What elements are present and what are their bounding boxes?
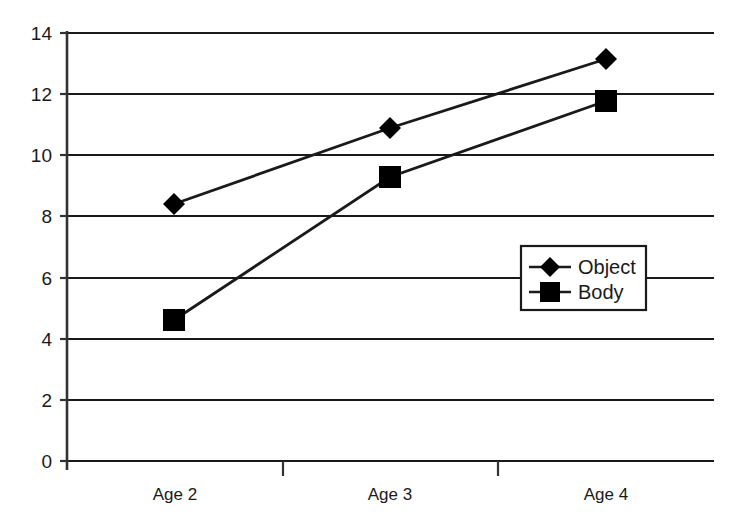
series-body-point-age-4[interactable]: [595, 90, 617, 112]
y-tick-label-8: 8: [41, 206, 52, 227]
legend[interactable]: Object Body: [521, 246, 646, 310]
y-tick-label-6: 6: [41, 268, 52, 289]
chart-container: 14 12 10 8 6 4 2 0 Age 2 Age 3 Age 4: [0, 0, 742, 530]
y-tick-label-12: 12: [31, 84, 52, 105]
x-category-label-age-4: Age 4: [584, 485, 628, 504]
line-chart: 14 12 10 8 6 4 2 0 Age 2 Age 3 Age 4: [0, 0, 742, 530]
y-tick-label-4: 4: [41, 329, 52, 350]
legend-label-object: Object: [578, 256, 636, 278]
x-category-label-age-3: Age 3: [368, 485, 412, 504]
x-category-label-age-2: Age 2: [153, 485, 197, 504]
y-tick-label-10: 10: [31, 145, 52, 166]
y-tick-label-14: 14: [31, 23, 53, 44]
series-body-point-age-2[interactable]: [163, 309, 185, 331]
y-tick-label-0: 0: [41, 451, 52, 472]
y-tick-label-2: 2: [41, 390, 52, 411]
legend-label-body: Body: [578, 281, 624, 303]
series-body-point-age-3[interactable]: [379, 166, 401, 188]
square-icon: [540, 282, 560, 302]
